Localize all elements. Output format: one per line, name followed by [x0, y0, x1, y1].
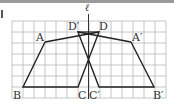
geometry-diagram: ℓ A A′ D′ D B B′ C C′ — [0, 0, 174, 107]
label-C: C — [78, 89, 86, 102]
label-A: A — [35, 31, 45, 44]
label-A-prime: A′ — [131, 31, 143, 44]
label-D-prime: D′ — [68, 20, 80, 33]
label-B-prime: B′ — [153, 89, 164, 102]
quad-ABCD — [23, 32, 99, 87]
label-D: D — [99, 20, 108, 33]
label-C-prime: C′ — [89, 89, 100, 102]
axis-label: ℓ — [85, 2, 89, 13]
label-B: B — [13, 89, 21, 102]
